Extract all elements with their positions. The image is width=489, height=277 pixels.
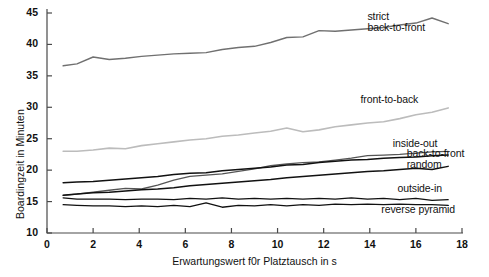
series-line-back-to-front [63,155,448,183]
series-annotation: back-to-front [367,22,425,34]
series-annotation: random [407,159,442,171]
x-axis-tick-label: 8 [211,238,251,250]
y-axis-tick-label: 35 [0,69,38,81]
series-annotation: reverse pyramid [381,204,455,216]
series-line-outside-in [63,198,448,201]
series-line-front-to-back [63,108,448,151]
y-axis-tick-label: 40 [0,37,38,49]
y-axis-tick-label: 10 [0,226,38,238]
series-annotation: outside-in [397,183,442,195]
x-axis-title: Erwartungswert f0r Platztausch in s [47,255,462,267]
x-axis-tick-label: 16 [396,238,436,250]
x-axis-tick-label: 18 [442,238,482,250]
chart-figure: 1015202530354045024681012141618strictbac… [0,0,489,277]
series-annotation: front-to-back [361,94,419,106]
x-axis-tick-label: 12 [304,238,344,250]
x-axis-tick-label: 14 [350,238,390,250]
x-axis-tick-label: 10 [258,238,298,250]
x-axis-tick-label: 2 [73,238,113,250]
y-axis-tick-label: 45 [0,6,38,18]
x-axis-tick-label: 4 [119,238,159,250]
x-axis-tick-label: 6 [165,238,205,250]
y-axis-title: Boardingzeit in Minuten [14,109,26,219]
series-line-random [63,166,448,195]
x-axis-tick-label: 0 [27,238,67,250]
